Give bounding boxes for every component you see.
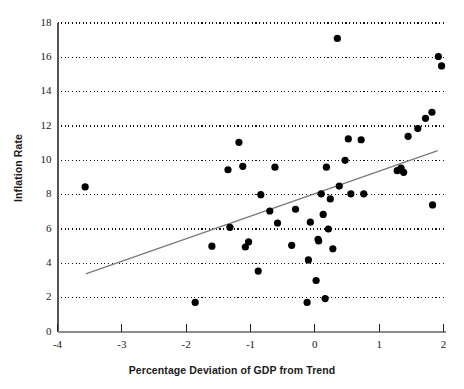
data-point (307, 219, 314, 226)
data-point (271, 164, 278, 171)
scatter-chart: Inflation Rate Percentage Deviation of G… (0, 0, 464, 389)
data-point (315, 237, 322, 244)
data-point (329, 245, 336, 252)
data-point (358, 136, 365, 143)
data-point (323, 164, 330, 171)
x-tick-marks (58, 324, 444, 333)
data-point (435, 53, 442, 60)
data-point (322, 295, 329, 302)
data-point (208, 243, 215, 250)
data-point (327, 195, 334, 202)
data-point (429, 201, 436, 208)
gridlines (58, 23, 446, 298)
data-point (428, 109, 435, 116)
data-point (226, 224, 233, 231)
data-point (360, 190, 367, 197)
axis-lines (58, 23, 446, 332)
data-point (341, 157, 348, 164)
data-point (334, 35, 341, 42)
data-point (320, 211, 327, 218)
data-point (304, 299, 311, 306)
data-point (266, 207, 273, 214)
data-point (347, 190, 354, 197)
data-point (414, 125, 421, 132)
trendline (86, 151, 437, 274)
data-point (438, 62, 445, 69)
data-point (325, 225, 332, 232)
data-point (288, 242, 295, 249)
data-point (192, 299, 199, 306)
plot-area (0, 0, 464, 389)
data-point (305, 256, 312, 263)
data-point (245, 238, 252, 245)
data-point (82, 183, 89, 190)
data-point (336, 182, 343, 189)
data-point (257, 191, 264, 198)
data-point (292, 206, 299, 213)
data-point (400, 169, 407, 176)
data-point (235, 139, 242, 146)
data-point (239, 163, 246, 170)
data-point (405, 133, 412, 140)
data-point (345, 135, 352, 142)
data-point (255, 267, 262, 274)
data-point (224, 166, 231, 173)
data-point (274, 219, 281, 226)
data-points (82, 35, 446, 306)
data-point (318, 190, 325, 197)
data-point (422, 115, 429, 122)
data-point (313, 277, 320, 284)
